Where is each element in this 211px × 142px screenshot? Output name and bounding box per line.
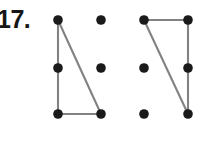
left-triangle-dot-r3c2 (96, 109, 106, 119)
right-triangle-dot-r1c1 (139, 15, 149, 25)
left-triangle-dot-r2c1 (53, 63, 63, 73)
left-triangle-dot-r1c2 (96, 15, 106, 25)
worksheet-figure-canvas: 17. (0, 0, 211, 142)
right-triangle-hypotenuse (144, 20, 188, 114)
left-triangle-figure (53, 15, 106, 119)
right-triangle-dot-r2c1 (139, 63, 149, 73)
right-triangle-dot-r2c2 (183, 63, 193, 73)
left-triangle-dot-r1c1 (53, 15, 63, 25)
left-triangle-hypotenuse (58, 20, 101, 114)
right-triangle-dot-r1c2 (183, 15, 193, 25)
right-triangle-dot-r3c2 (183, 109, 193, 119)
right-triangle-figure (139, 15, 193, 119)
left-triangle-dot-r2c2 (96, 63, 106, 73)
dot-grid-figures (0, 0, 211, 142)
right-triangle-dot-r3c1 (139, 109, 149, 119)
left-triangle-dot-r3c1 (53, 109, 63, 119)
